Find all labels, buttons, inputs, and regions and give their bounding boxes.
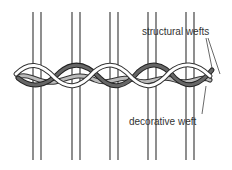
structural-wefts-label: structural wefts (142, 26, 209, 37)
weaving-diagram: structural wefts decorative weft (0, 0, 232, 170)
decorative-weft-label: decorative weft (129, 116, 196, 127)
